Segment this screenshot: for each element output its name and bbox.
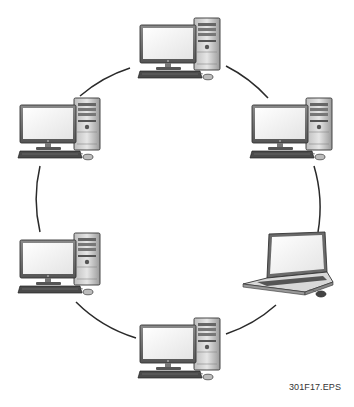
link-bottom-to-lower-left [76, 302, 136, 338]
computer-node-bottom [138, 318, 220, 380]
figure-label: 301F17.EPS [289, 382, 341, 392]
link-upper-left-to-top [80, 68, 130, 96]
computer-node-upper-right [250, 98, 332, 160]
link-top-to-upper-right [226, 66, 268, 98]
computer-node-upper-left [18, 98, 100, 160]
computer-node-top [138, 18, 220, 80]
laptop-node-lower-right [243, 232, 333, 297]
ring-network-diagram [0, 0, 354, 407]
link-lower-right-to-bottom [226, 305, 276, 334]
computer-node-lower-left [18, 233, 100, 295]
link-upper-right-to-lower-right [314, 166, 320, 232]
link-lower-left-to-upper-left [36, 166, 40, 232]
